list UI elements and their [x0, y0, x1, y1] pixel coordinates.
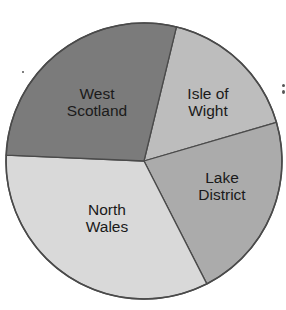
print-speck [22, 71, 24, 73]
slice-label-lake-district: Lake District [198, 169, 245, 203]
slice-label-west-scotland: West Scotland [67, 85, 127, 119]
slice-label-north-wales: North Wales [86, 201, 129, 235]
slice-label-isle-of-wight: Isle of Wight [187, 85, 228, 119]
print-speck [282, 90, 285, 94]
print-speck [282, 84, 285, 87]
pie-chart [0, 0, 286, 310]
